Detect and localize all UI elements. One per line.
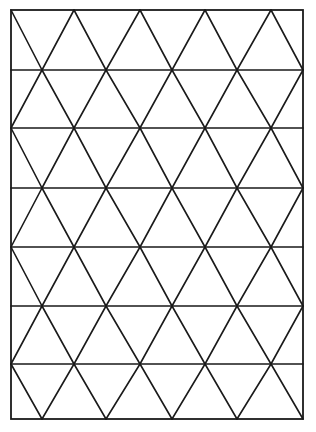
triangle-grid-diagram (0, 0, 316, 432)
